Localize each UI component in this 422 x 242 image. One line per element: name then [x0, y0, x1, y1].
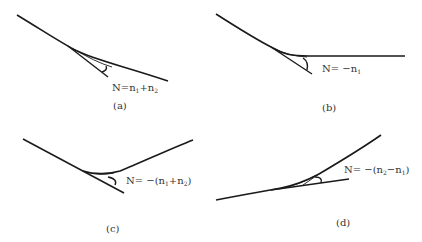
curve-diagram-a [0, 0, 211, 121]
caption-c: (c) [106, 223, 119, 234]
angle-arc-icon [315, 177, 321, 183]
caption-d: (d) [336, 217, 350, 228]
curve-diagram-d [211, 121, 422, 242]
panel-c: N= −(n1+n2) (c) [0, 121, 211, 242]
formula-c: N= −(n1+n2) [126, 175, 191, 187]
panel-b: N= −n1 (b) [211, 0, 422, 121]
caption-b: (b) [322, 102, 336, 113]
angle-arc-icon [108, 177, 116, 185]
formula-d: N= −(n2−n1) [344, 164, 409, 176]
angle-arc-icon [102, 66, 107, 72]
panel-a: N=n1+n2 (a) [0, 0, 211, 121]
caption-a: (a) [113, 100, 127, 111]
formula-a: N=n1+n2 [112, 82, 158, 94]
curve-diagram-b [211, 0, 422, 121]
formula-b: N= −n1 [322, 63, 361, 75]
panel-d: N= −(n2−n1) (d) [211, 121, 422, 242]
